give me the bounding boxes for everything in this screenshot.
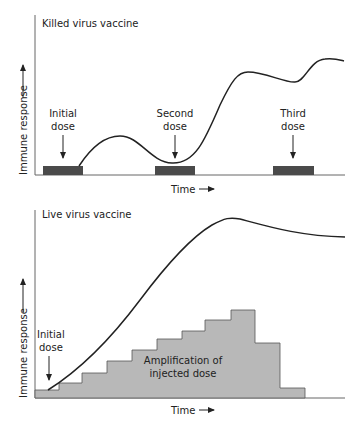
y-axis-label: Immune response — [18, 85, 29, 175]
dose-label: Third — [279, 108, 306, 119]
area-label: Amplification of — [144, 355, 223, 366]
dose-label: dose — [281, 121, 305, 132]
bottom-panel: Live virus vaccine Immune response Time … — [18, 209, 345, 416]
area-label: injected dose — [150, 368, 217, 379]
dose-label: Initial — [49, 108, 77, 119]
dose-label: Initial — [37, 329, 65, 340]
x-axis-label: Time — [170, 184, 195, 195]
vaccine-diagram: Killed virus vaccine Immune response Tim… — [0, 0, 364, 421]
dose-label: dose — [39, 342, 63, 353]
y-axis-label: Immune response — [18, 308, 29, 398]
dose-label: Second — [157, 108, 194, 119]
dose-bar — [43, 166, 83, 175]
panel-title: Live virus vaccine — [42, 209, 131, 220]
dose-bar — [155, 166, 195, 175]
top-panel: Killed virus vaccine Immune response Tim… — [18, 15, 345, 195]
dose-label: dose — [51, 121, 75, 132]
dose-label: dose — [163, 121, 187, 132]
panel-title: Killed virus vaccine — [42, 18, 138, 29]
x-axis-label: Time — [170, 405, 195, 416]
dose-bar — [273, 166, 314, 175]
amplification-area — [35, 310, 305, 398]
